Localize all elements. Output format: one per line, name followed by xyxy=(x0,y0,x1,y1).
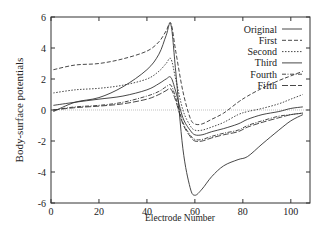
y-tick-label: 2 xyxy=(41,74,46,85)
y-tick-label: 4 xyxy=(41,43,46,54)
y-tick-label: 0 xyxy=(41,105,46,116)
legend-label-fifth: Fifth xyxy=(258,80,277,91)
legend-label-fourth: Fourth xyxy=(250,69,277,80)
x-tick-label: 100 xyxy=(283,206,298,217)
y-tick-label: -6 xyxy=(38,198,46,209)
y-tick-label: -4 xyxy=(38,167,46,178)
legend-label-second: Second xyxy=(248,46,277,57)
x-tick-label: 20 xyxy=(94,206,104,217)
x-axis-label: Electrode Number xyxy=(145,213,216,223)
series-line-fourth xyxy=(53,85,302,140)
legend-label-first: First xyxy=(259,35,278,46)
legend-label-original: Original xyxy=(244,24,278,35)
x-tick-label: 80 xyxy=(238,206,248,217)
x-tick-label: 0 xyxy=(49,206,54,217)
y-tick-label: 6 xyxy=(41,12,46,23)
legend-label-third: Third xyxy=(255,57,277,68)
y-tick-label: -2 xyxy=(38,136,46,147)
chart: -6-4-20246 020406080100 Electrode Number… xyxy=(0,0,329,238)
y-axis-label: Body-surface potentials xyxy=(13,58,25,163)
legend: OriginalFirstSecondThirdFourthFifth xyxy=(244,24,302,92)
